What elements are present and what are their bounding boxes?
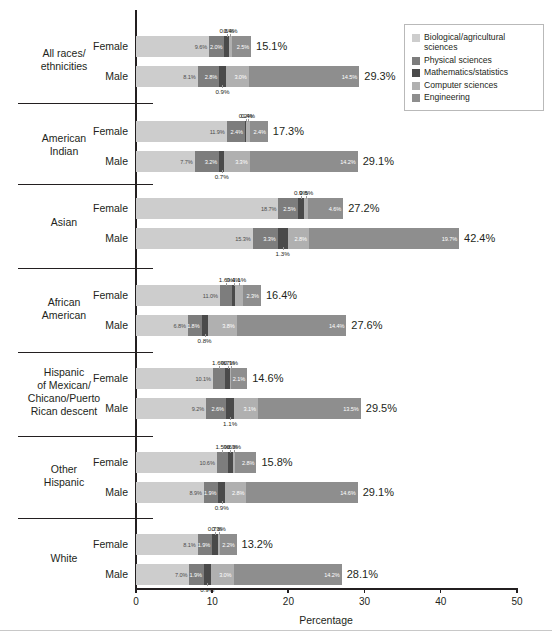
segment-value-label: 15.3% (235, 236, 252, 242)
row-total-label: 29.3% (359, 66, 395, 87)
bar-segment-comp: 3.1% (234, 398, 258, 419)
stacked-bar-chart: 01020304050 Percentage All races/ethnici… (0, 0, 552, 644)
bar-segment-comp: 3.0% (226, 66, 249, 87)
chart-row: Female11.9%2.4%2.4%17.3% (0, 121, 552, 142)
segment-value-label: 6.8% (173, 323, 187, 329)
segment-callout-label: 0.3% (227, 443, 241, 450)
x-tick-label: 10 (207, 596, 218, 607)
x-tick-label: 0 (133, 596, 139, 607)
bar-segment-math (298, 198, 305, 219)
callout-leader-line (230, 34, 231, 37)
segment-value-label: 3.2% (205, 159, 219, 165)
bar-segment-phys: 1.9% (189, 564, 203, 585)
callout-leader-line (230, 450, 231, 453)
segment-value-label: 11.9% (210, 129, 227, 135)
row-total-label: 17.3% (268, 121, 304, 142)
segment-value-label: 14.2% (324, 572, 341, 578)
segment-value-label: 2.5% (283, 206, 297, 212)
bar-segment-phys: 2.8% (198, 66, 219, 87)
stacked-bar: 11.9%2.4%2.4% (136, 121, 268, 142)
bar-segment-phys: 3.2% (195, 151, 219, 172)
stacked-bar: 10.1%2.1% (136, 368, 247, 389)
group-divider (18, 103, 153, 104)
legend-item[interactable]: Biological/agricultural sciences (412, 32, 537, 52)
row-total-label: 27.2% (343, 198, 379, 219)
segment-callout-label: 0.1% (224, 359, 238, 366)
bar-segment-comp: 3.8% (208, 315, 237, 336)
segment-value-label: 8.1% (183, 542, 197, 548)
x-tick (440, 588, 442, 593)
segment-value-label: 2.4% (253, 129, 267, 135)
segment-callout-label: 1.1% (223, 420, 237, 427)
segment-value-label: 14.6% (340, 490, 357, 496)
bar-segment-bio: 9.6% (136, 36, 209, 57)
bar-segment-phys: 1.9% (198, 534, 212, 555)
callout-leader-line (226, 283, 227, 286)
callout-leader-line (246, 119, 247, 122)
callout-leader-line (215, 532, 216, 535)
legend-label: Biological/agricultural sciences (424, 32, 537, 52)
bar-segment-bio: 9.2% (136, 398, 206, 419)
row-total-label: 29.5% (361, 398, 397, 419)
callout-leader-line (248, 119, 249, 122)
bar-segment-comp: 2.8% (288, 228, 309, 249)
bar-segment-phys: 2.6% (206, 398, 226, 419)
legend-label: Engineering (424, 92, 470, 102)
segment-value-label: 2.0% (210, 44, 224, 50)
legend-item[interactable]: Engineering (412, 92, 537, 102)
segment-value-label: 2.3% (247, 293, 261, 299)
segment-value-label: 13.5% (343, 406, 360, 412)
chart-row: Male6.8%1.8%3.8%14.4%27.6% (0, 315, 552, 336)
legend-swatch-icon (412, 34, 420, 42)
chart-row: Male7.0%1.9%3.0%14.2%28.1% (0, 564, 552, 585)
callout-leader-line (234, 450, 235, 453)
segment-value-label: 11.0% (203, 293, 220, 299)
x-tick (287, 588, 289, 593)
segment-value-label: 9.2% (192, 406, 206, 412)
row-total-label: 15.1% (251, 36, 287, 57)
stacked-bar: 18.7%2.5%4.6% (136, 198, 343, 219)
callout-leader-line (222, 501, 223, 504)
x-tick (516, 588, 518, 593)
row-label-female: Female (60, 121, 128, 142)
callout-leader-line (306, 196, 307, 199)
bar-segment-phys: 1.9% (204, 482, 218, 503)
callout-leader-line (227, 34, 228, 37)
legend-item[interactable]: Mathematics/statistics (412, 67, 537, 77)
segment-value-label: 2.1% (233, 376, 247, 382)
bar-segment-bio: 7.7% (136, 151, 195, 172)
stacked-bar: 8.1%1.9%2.2% (136, 534, 237, 555)
group-divider (18, 352, 153, 353)
x-axis-title: Percentage (135, 614, 517, 626)
legend-swatch-icon (412, 94, 420, 102)
segment-value-label: 3.8% (222, 323, 236, 329)
row-total-label: 29.1% (358, 151, 394, 172)
bar-segment-math (204, 564, 211, 585)
bar-segment-phys (217, 452, 228, 473)
bar-segment-eng: 14.2% (250, 151, 358, 172)
callout-leader-line (207, 583, 208, 586)
bar-segment-phys (220, 285, 232, 306)
row-total-label: 16.4% (261, 285, 297, 306)
row-label-female: Female (60, 534, 128, 555)
segment-value-label: 9.6% (195, 44, 209, 50)
segment-value-label: 7.7% (180, 159, 194, 165)
chart-row: Male7.7%3.2%3.3%14.2%29.1% (0, 151, 552, 172)
x-tick-label: 40 (435, 596, 446, 607)
callout-leader-line (228, 366, 229, 369)
segment-value-label: 2.4% (231, 129, 245, 135)
bar-segment-bio: 10.6% (136, 452, 217, 473)
segment-value-label: 3.3% (235, 159, 249, 165)
bar-segment-bio: 11.9% (136, 121, 227, 142)
segment-value-label: 2.6% (212, 406, 226, 412)
group-divider (18, 268, 153, 269)
callout-leader-line (219, 366, 220, 369)
bar-segment-eng: 2.3% (243, 285, 261, 306)
legend-item[interactable]: Physical sciences (412, 55, 537, 65)
row-total-label: 15.8% (256, 452, 292, 473)
legend-item[interactable]: Computer sciences (412, 80, 537, 90)
row-label-male: Male (60, 151, 128, 172)
legend-label: Computer sciences (424, 80, 498, 90)
bar-segment-phys: 2.4% (227, 121, 245, 142)
bar-segment-eng: 2.2% (220, 534, 237, 555)
